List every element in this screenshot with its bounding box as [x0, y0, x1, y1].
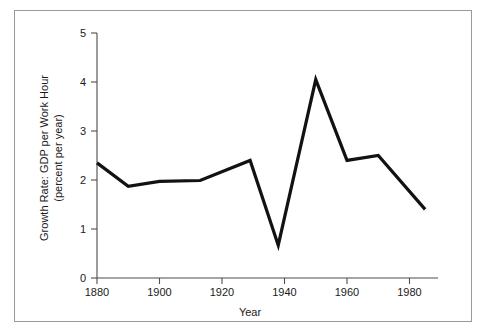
x-tick-label: 1960	[335, 286, 359, 298]
x-tick-label: 1980	[397, 286, 421, 298]
x-tick-label: 1900	[147, 286, 171, 298]
x-axis-title: Year	[239, 306, 262, 318]
x-tick-label: 1940	[272, 286, 296, 298]
x-tick-label: 1920	[210, 286, 234, 298]
y-tick-marks	[91, 33, 97, 278]
y-tick-label: 3	[80, 125, 86, 137]
y-tick-label: 2	[80, 174, 86, 186]
line-chart: 0 1 2 3 4 5 1880 1900 1920 1940 1960 198…	[0, 0, 488, 336]
y-tick-labels: 0 1 2 3 4 5	[80, 27, 86, 284]
data-series-line	[97, 80, 425, 246]
y-axis-title-line2: (percent per year)	[52, 114, 64, 201]
y-tick-label: 5	[80, 27, 86, 39]
y-axis-title-line1: Growth Rate: GDP per Work Hour	[38, 75, 50, 241]
y-tick-label: 0	[80, 272, 86, 284]
axis-spine	[97, 33, 438, 278]
x-tick-label: 1880	[85, 286, 109, 298]
y-tick-label: 1	[80, 223, 86, 235]
x-tick-marks	[97, 278, 410, 284]
y-axis-title: Growth Rate: GDP per Work Hour (percent …	[38, 75, 64, 241]
chart-figure: 0 1 2 3 4 5 1880 1900 1920 1940 1960 198…	[0, 0, 488, 336]
y-tick-label: 4	[80, 76, 86, 88]
x-tick-labels: 1880 1900 1920 1940 1960 1980	[85, 286, 422, 298]
